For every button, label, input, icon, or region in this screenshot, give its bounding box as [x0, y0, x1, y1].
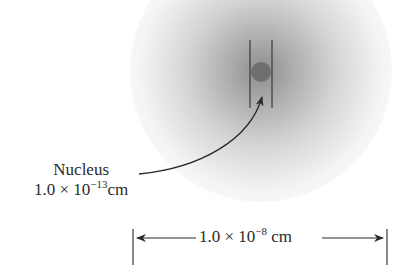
nucleus-size: 1.0 × 10−13cm: [34, 180, 128, 200]
atom-size-label: 1.0 × 10−8 cm: [197, 227, 294, 247]
nucleus-label: Nucleus 1.0 × 10−13cm: [34, 160, 128, 200]
nucleus-label-text: Nucleus: [34, 160, 128, 180]
nucleus-dot: [251, 62, 271, 82]
nucleus-leader-arrow: [139, 97, 262, 174]
